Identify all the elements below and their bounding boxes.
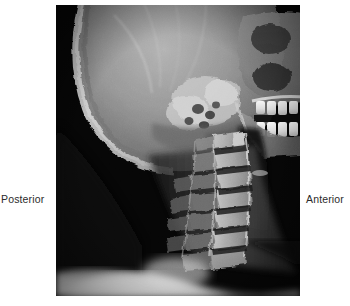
radiograph-image (56, 5, 300, 296)
film-vignette (56, 5, 300, 296)
radiograph-figure: Posterior Anterior (0, 0, 350, 306)
orientation-label-anterior: Anterior (306, 193, 344, 205)
radiograph-content (56, 5, 300, 296)
orientation-label-posterior: Posterior (1, 193, 44, 205)
radiograph-canvas (56, 5, 300, 296)
